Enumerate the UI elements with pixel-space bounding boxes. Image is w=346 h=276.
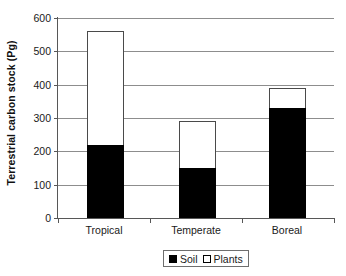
- x-tick-mark-start: [58, 218, 59, 223]
- legend-item-plants: Plants: [203, 253, 243, 265]
- y-tick-mark-200: [54, 151, 58, 152]
- y-tick-mark-300: [54, 118, 58, 119]
- legend-swatch-soil-icon: [169, 255, 177, 263]
- legend-item-soil: Soil: [169, 253, 198, 265]
- y-axis-title-text: Terrestrial carbon stock (Pg): [5, 40, 17, 185]
- legend-label-plants: Plants: [214, 253, 243, 265]
- x-tick-mark-2: [242, 218, 243, 223]
- bar-boreal: [269, 88, 306, 218]
- bar-segment-soil-boreal: [269, 108, 306, 218]
- x-axis-line: [57, 218, 335, 219]
- y-tick-label-200: 200: [33, 145, 51, 157]
- x-category-label-boreal: Boreal: [272, 224, 302, 236]
- y-tick-label-0: 0: [45, 212, 51, 224]
- x-tick-mark-end: [334, 218, 335, 223]
- y-tick-label-600: 600: [33, 12, 51, 24]
- bar-segment-soil-temperate: [179, 168, 216, 218]
- y-tick-label-100: 100: [33, 179, 51, 191]
- bar-temperate: [179, 121, 216, 218]
- x-category-label-tropical: Tropical: [86, 224, 123, 236]
- legend-label-soil: Soil: [180, 253, 198, 265]
- x-tick-mark-1: [150, 218, 151, 223]
- chart-legend: Soil Plants: [163, 250, 249, 267]
- x-category-label-temperate: Temperate: [171, 224, 221, 236]
- legend-swatch-plants-icon: [203, 255, 211, 263]
- y-tick-label-300: 300: [33, 112, 51, 124]
- gridline-600: [58, 18, 334, 19]
- plot-area: 600 500 400 300 200 100 0: [58, 18, 334, 218]
- y-tick-mark-400: [54, 85, 58, 86]
- chart-figure: Terrestrial carbon stock (Pg) 600 500 40…: [0, 0, 346, 276]
- y-tick-label-500: 500: [33, 45, 51, 57]
- y-tick-mark-500: [54, 51, 58, 52]
- y-tick-label-400: 400: [33, 79, 51, 91]
- y-axis-title: Terrestrial carbon stock (Pg): [0, 0, 22, 226]
- bar-tropical: [87, 31, 124, 218]
- y-tick-mark-100: [54, 185, 58, 186]
- y-tick-mark-600: [54, 18, 58, 19]
- bar-segment-soil-tropical: [87, 145, 124, 218]
